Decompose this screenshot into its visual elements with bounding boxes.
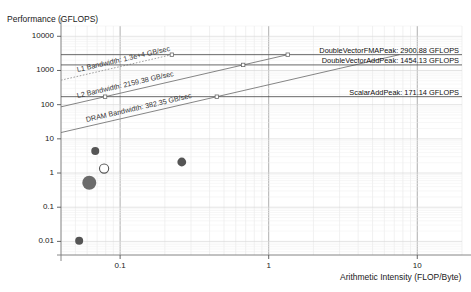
data-point xyxy=(82,176,96,190)
data-point xyxy=(177,158,186,167)
y-tick-label-1: 1000 xyxy=(10,65,54,74)
y-tick-label-5: 0.1 xyxy=(10,202,54,211)
y-tick-label-6: 0.01 xyxy=(10,236,54,245)
tick-marks xyxy=(57,36,417,259)
x-tick-label-0: 0.1 xyxy=(100,261,140,270)
y-tick-label-3: 10 xyxy=(10,134,54,143)
compute-ceiling-label-2: ScalarAddPeak: 171.14 GFLOPS xyxy=(0,88,459,97)
chart-canvas xyxy=(0,0,471,292)
data-point xyxy=(91,147,99,155)
y-axis-title: Performance (GFLOPS) xyxy=(7,14,98,24)
data-point xyxy=(75,237,83,245)
x-tick-label-1: 1 xyxy=(249,261,289,270)
y-tick-label-0: 10000 xyxy=(10,31,54,40)
x-tick-label-2: 10 xyxy=(397,261,437,270)
data-points xyxy=(75,147,186,245)
compute-ceiling-label-0: DoubleVectorFMAPeak: 2900.88 GFLOPS xyxy=(0,46,459,55)
y-tick-label-4: 1 xyxy=(10,168,54,177)
data-point xyxy=(99,164,108,173)
roofline-chart: Performance (GFLOPS) Arithmetic Intensit… xyxy=(0,0,471,292)
y-tick-label-2: 100 xyxy=(10,100,54,109)
x-axis-title: Arithmetic Intensity (FLOP/Byte) xyxy=(340,272,461,282)
compute-ceiling-label-1: DoubleVectorAddPeak: 1454.13 GFLOPS xyxy=(0,56,459,65)
